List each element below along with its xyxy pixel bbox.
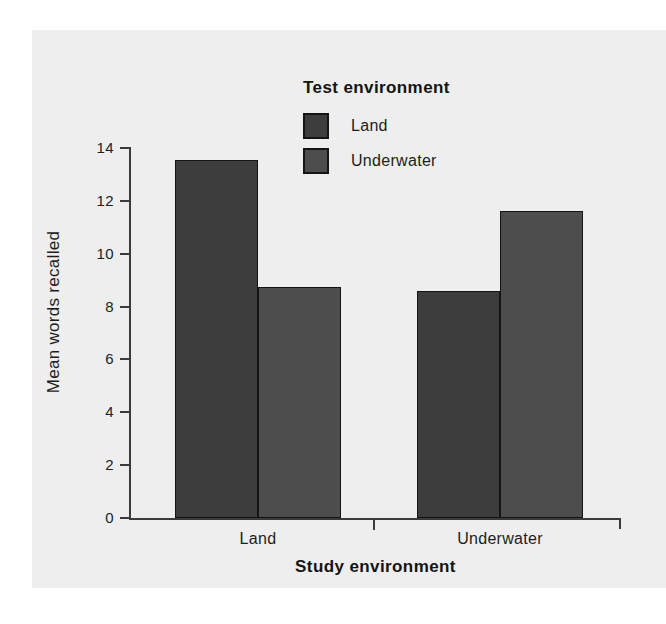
y-tick-label: 4: [78, 404, 114, 419]
plot-area: [131, 148, 620, 518]
y-axis-tick: [120, 358, 130, 360]
y-tick-label: 2: [78, 457, 114, 472]
y-axis-title: Mean words recalled: [44, 212, 64, 412]
x-axis-end-cap: [619, 518, 621, 529]
legend-item: Land: [303, 108, 450, 143]
bar-chart-figure: 02468101214 Land Underwater Study enviro…: [0, 0, 666, 624]
bar-land-underwater: [417, 291, 500, 518]
legend-swatch-land: [303, 113, 329, 139]
y-tick-label: 14: [78, 140, 114, 155]
y-axis-tick: [120, 464, 130, 466]
x-axis-tick-center: [373, 520, 375, 530]
legend-title: Test environment: [303, 78, 450, 98]
legend: Test environment LandUnderwater: [303, 78, 450, 178]
x-tick-label-underwater: Underwater: [410, 530, 590, 548]
legend-item: Underwater: [303, 143, 450, 178]
y-axis-tick: [120, 147, 130, 149]
y-axis-tick: [120, 253, 130, 255]
y-axis-tick: [120, 200, 130, 202]
y-axis-tick: [120, 306, 130, 308]
x-axis-title: Study environment: [131, 557, 620, 577]
legend-swatch-underwater: [303, 148, 329, 174]
y-tick-label: 6: [78, 351, 114, 366]
bar-underwater-land: [258, 287, 341, 518]
y-axis-tick: [120, 517, 130, 519]
y-tick-label: 0: [78, 510, 114, 525]
y-axis-tick: [120, 411, 130, 413]
legend-label: Land: [351, 117, 388, 135]
y-tick-label: 10: [78, 246, 114, 261]
y-tick-label: 12: [78, 193, 114, 208]
x-tick-label-land: Land: [168, 530, 348, 548]
legend-entries: LandUnderwater: [303, 108, 450, 178]
x-axis-line: [129, 518, 621, 520]
bar-land-land: [175, 160, 258, 518]
legend-label: Underwater: [351, 152, 437, 170]
bar-underwater-underwater: [500, 211, 583, 518]
y-tick-label: 8: [78, 299, 114, 314]
